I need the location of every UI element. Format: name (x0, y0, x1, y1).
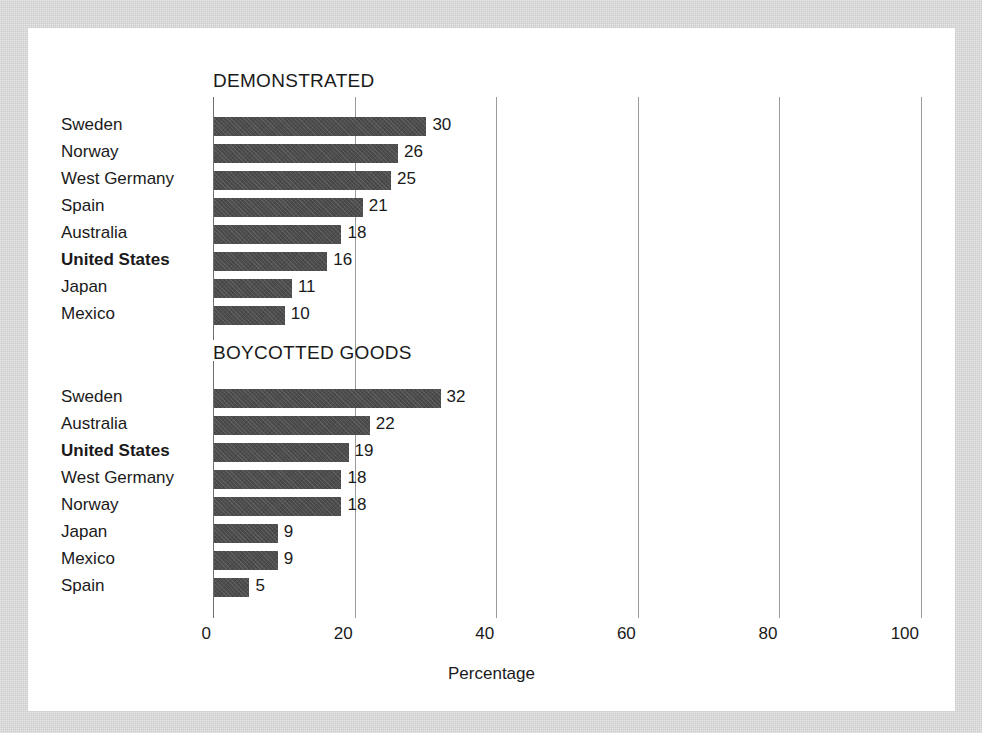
bar (214, 443, 349, 462)
bar-row: Spain5 (28, 578, 955, 597)
bar (214, 578, 249, 597)
bar-row: Spain21 (28, 198, 955, 217)
bar-value-label: 9 (284, 522, 293, 541)
bar-category-label: Sweden (61, 387, 122, 406)
bar-row: Japan11 (28, 279, 955, 298)
bar (214, 252, 327, 271)
bar-value-label: 16 (333, 250, 352, 269)
bar-row: United States16 (28, 252, 955, 271)
bar-row: Mexico10 (28, 306, 955, 325)
bar-row: Sweden30 (28, 117, 955, 136)
bar-value-label: 11 (298, 277, 316, 296)
bar-row: Norway18 (28, 497, 955, 516)
panel-heading-demonstrated: DEMONSTRATED (213, 70, 375, 92)
bar-category-label: West Germany (61, 468, 174, 487)
bar-category-label: Spain (61, 196, 104, 215)
bar-row: West Germany25 (28, 171, 955, 190)
bar (214, 117, 426, 136)
bar-value-label: 9 (284, 549, 293, 568)
x-tick-label-40: 40 (475, 624, 497, 644)
bar-value-label: 18 (347, 223, 366, 242)
chart-plot-area: DEMONSTRATED BOYCOTTED GOODS Sweden30Nor… (28, 28, 955, 711)
bar-row: West Germany18 (28, 470, 955, 489)
bar-row: Australia18 (28, 225, 955, 244)
bar-category-label: United States (61, 441, 170, 460)
bar-category-label: Spain (61, 576, 104, 595)
bar-category-label: Australia (61, 414, 127, 433)
bar (214, 470, 341, 489)
bar-category-label: Mexico (61, 304, 115, 323)
bar (214, 279, 292, 298)
bar-category-label: West Germany (61, 169, 174, 188)
bar-row: Japan9 (28, 524, 955, 543)
bar-value-label: 21 (369, 196, 388, 215)
bar-value-label: 22 (376, 414, 395, 433)
bar (214, 225, 341, 244)
bar-category-label: United States (61, 250, 170, 269)
bar-category-label: Australia (61, 223, 127, 242)
bar-category-label: Sweden (61, 115, 122, 134)
bar (214, 171, 391, 190)
bar (214, 144, 398, 163)
bar-row: Australia22 (28, 416, 955, 435)
bar-value-label: 19 (355, 441, 374, 460)
x-tick-label-60: 60 (617, 624, 639, 644)
x-tick-label-80: 80 (758, 624, 780, 644)
bar-row: Norway26 (28, 144, 955, 163)
bar (214, 551, 278, 570)
x-tick-label-100: 100 (891, 624, 922, 644)
bar-value-label: 18 (347, 495, 366, 514)
bar (214, 524, 278, 543)
bar-category-label: Japan (61, 522, 107, 541)
figure-panel: DEMONSTRATED BOYCOTTED GOODS Sweden30Nor… (28, 28, 955, 711)
bar (214, 198, 363, 217)
bar-row: United States19 (28, 443, 955, 462)
bar (214, 389, 441, 408)
bar-category-label: Japan (61, 277, 107, 296)
bar-row: Sweden32 (28, 389, 955, 408)
x-axis-title: Percentage (28, 664, 955, 684)
bar-category-label: Norway (61, 142, 119, 161)
x-tick-label-0: 0 (202, 624, 214, 644)
bar-value-label: 30 (432, 115, 451, 134)
bar-value-label: 32 (447, 387, 466, 406)
bar-row: Mexico9 (28, 551, 955, 570)
panel-heading-boycotted: BOYCOTTED GOODS (213, 342, 412, 364)
bar-value-label: 26 (404, 142, 423, 161)
bar-category-label: Norway (61, 495, 119, 514)
bar-value-label: 18 (347, 468, 366, 487)
bar (214, 416, 370, 435)
bar-value-label: 5 (255, 576, 264, 595)
bar-category-label: Mexico (61, 549, 115, 568)
bar (214, 497, 341, 516)
bar-value-label: 25 (397, 169, 416, 188)
bar-value-label: 10 (291, 304, 310, 323)
bar (214, 306, 285, 325)
x-tick-label-20: 20 (334, 624, 356, 644)
